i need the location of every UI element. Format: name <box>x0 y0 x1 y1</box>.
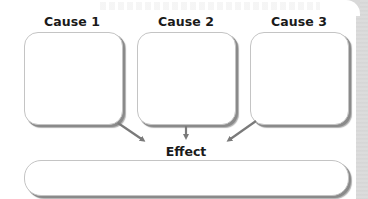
page-edge-strip <box>356 0 368 199</box>
cause-2-label: Cause 2 <box>136 14 236 29</box>
effect-label: Effect <box>136 144 236 159</box>
cause-2-box[interactable] <box>137 32 236 125</box>
bleed-through-text <box>100 2 320 10</box>
cause-3-box[interactable] <box>250 32 349 125</box>
cause-1-box[interactable] <box>24 32 123 125</box>
cause-3-label: Cause 3 <box>249 14 349 29</box>
cause-1-label: Cause 1 <box>22 14 122 29</box>
effect-box[interactable] <box>24 160 349 196</box>
